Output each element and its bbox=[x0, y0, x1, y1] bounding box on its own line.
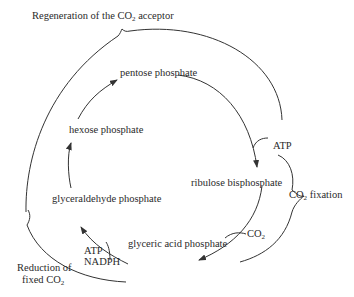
phase-reduction-label-line1: Reduction of bbox=[17, 262, 72, 274]
node-glyceraldehyde-phosphate: glyceraldehyde phosphate bbox=[52, 193, 161, 205]
node-ribulose-bisphosphate: ribulose bisphosphate bbox=[191, 177, 282, 189]
node-pentose-phosphate: pentose phosphate bbox=[120, 67, 197, 79]
atp-input-curve bbox=[253, 138, 268, 148]
fixation-bracket bbox=[240, 155, 304, 262]
co2-input-label: CO2 bbox=[247, 228, 265, 240]
arrow-glyceraldehyde-to-hexose bbox=[68, 143, 71, 188]
node-hexose-phosphate: hexose phosphate bbox=[69, 124, 143, 136]
phase-reduction-label-line2: fixed CO2 bbox=[22, 274, 64, 286]
cycle-diagram-lines bbox=[0, 0, 354, 297]
arrow-pentose-to-ribulose bbox=[178, 75, 257, 167]
phase-regeneration-label: Regeneration of the CO2 acceptor bbox=[32, 10, 174, 22]
atp-input-label: ATP bbox=[273, 140, 292, 152]
nadph-label: NADPH bbox=[84, 256, 120, 268]
node-glyceric-acid-phosphate: glyceric acid phosphate bbox=[128, 238, 227, 250]
arrow-hexose-to-pentose bbox=[78, 80, 117, 119]
phase-fixation-label: CO2 fixation bbox=[289, 189, 342, 201]
